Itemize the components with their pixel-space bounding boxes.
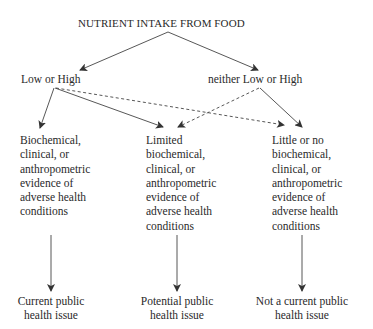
evidence-little-or-none: Little or no biochemical, clinical, or a…: [272, 133, 342, 233]
diagram-title: NUTRIENT INTAKE FROM FOOD: [78, 16, 245, 30]
arrow-title-to-neither: [168, 32, 258, 70]
outcome-not-current-public-health-issue: Not a current public health issue: [242, 294, 362, 322]
branch-low-or-high: Low or High: [21, 72, 80, 86]
branch-neither-low-or-high: neither Low or High: [208, 72, 302, 86]
arrow-neither-to-limited-dashed: [178, 88, 259, 127]
arrow-low-high-to-limited: [55, 88, 163, 127]
evidence-biochemical: Biochemical, clinical, or anthropometric…: [20, 133, 90, 219]
arrow-neither-to-little: [260, 88, 302, 127]
arrow-low-high-to-little-dashed: [56, 88, 284, 125]
arrow-low-high-to-evidence: [40, 88, 54, 128]
outcome-current-public-health-issue: Current public health issue: [1, 294, 101, 322]
outcome-potential-public-health-issue: Potential public health issue: [122, 294, 232, 322]
evidence-limited: Limited biochemical, clinical, or anthro…: [146, 133, 216, 233]
arrow-title-to-low-or-high: [80, 32, 168, 70]
